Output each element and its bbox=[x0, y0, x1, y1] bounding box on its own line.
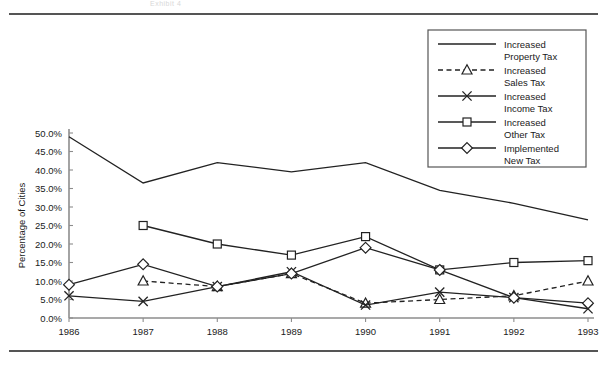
line-chart: 0.0%5.0%10.0%15.0%20.0%25.0%30.0%35.0%40… bbox=[0, 0, 605, 365]
legend-label-line2: Property Tax bbox=[504, 51, 557, 62]
legend-label-line2: New Tax bbox=[504, 155, 541, 166]
chart-legend: IncreasedProperty TaxIncreasedSales TaxI… bbox=[428, 30, 586, 167]
y-axis-tick-label: 10.0% bbox=[35, 276, 62, 287]
x-axis-tick-label: 1987 bbox=[133, 326, 154, 337]
y-axis-title-label: Percentage of Cities bbox=[16, 182, 27, 268]
marker-square bbox=[287, 251, 295, 259]
marker-diamond bbox=[360, 242, 371, 253]
marker-diamond bbox=[138, 259, 149, 270]
y-axis-tick-label: 35.0% bbox=[35, 183, 62, 194]
series-increased-sales-tax bbox=[138, 268, 593, 307]
x-axis-tick-label: 1993 bbox=[577, 326, 598, 337]
marker-triangle bbox=[583, 276, 593, 285]
x-axis-tick-label: 1988 bbox=[207, 326, 228, 337]
y-axis-tick-label: 45.0% bbox=[35, 146, 62, 157]
series-line bbox=[69, 272, 588, 309]
bottom-divider-rule bbox=[9, 350, 598, 352]
legend-label-line1: Implemented bbox=[504, 143, 559, 154]
legend-label-line2: Income Tax bbox=[504, 103, 553, 114]
marker-square bbox=[213, 240, 221, 248]
marker-square bbox=[584, 257, 592, 265]
y-axis-tick-label: 20.0% bbox=[35, 239, 62, 250]
y-axis-tick-label: 30.0% bbox=[35, 202, 62, 213]
y-axis-tick-label: 50.0% bbox=[35, 128, 62, 139]
x-axis: 19861987198819891990199119921993 bbox=[58, 318, 598, 337]
legend-label-line1: Increased bbox=[504, 39, 546, 50]
y-axis-tick-label: 0.0% bbox=[40, 313, 62, 324]
y-axis-tick-label: 15.0% bbox=[35, 257, 62, 268]
y-axis-title: Percentage of Cities bbox=[16, 182, 27, 268]
marker-square bbox=[139, 222, 147, 230]
x-axis-tick-label: 1992 bbox=[503, 326, 524, 337]
marker-square bbox=[510, 259, 518, 267]
top-divider-rule bbox=[9, 13, 598, 15]
legend-label-line1: Increased bbox=[504, 65, 546, 76]
page-header-ghost-text: Exhibit 4 bbox=[150, 0, 181, 7]
marker-square bbox=[463, 118, 471, 126]
series-line bbox=[69, 248, 588, 304]
figure-container: Exhibit 4 0.0%5.0%10.0%15.0%20.0%25.0%30… bbox=[0, 0, 605, 365]
y-axis-tick-label: 5.0% bbox=[40, 294, 62, 305]
y-axis-tick-label: 40.0% bbox=[35, 165, 62, 176]
marker-square bbox=[362, 233, 370, 241]
legend-label-line2: Other Tax bbox=[504, 129, 545, 140]
legend-label-line2: Sales Tax bbox=[504, 77, 545, 88]
x-axis-tick-label: 1990 bbox=[355, 326, 376, 337]
marker-triangle bbox=[138, 276, 148, 285]
y-axis-tick-label: 25.0% bbox=[35, 220, 62, 231]
x-axis-tick-label: 1991 bbox=[429, 326, 450, 337]
legend-label-line1: Increased bbox=[504, 91, 546, 102]
marker-diamond bbox=[583, 298, 594, 309]
legend-label-line1: Increased bbox=[504, 117, 546, 128]
x-axis-tick-label: 1986 bbox=[58, 326, 79, 337]
x-axis-tick-label: 1989 bbox=[281, 326, 302, 337]
